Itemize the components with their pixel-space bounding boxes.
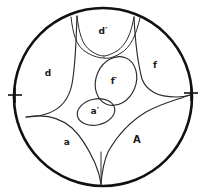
disk-partition-diagram: d′ d f f′ a′ a A xyxy=(0,0,206,194)
region-label-d-prime: d′ xyxy=(98,26,108,36)
region-label-a-prime: a′ xyxy=(91,106,100,116)
region-label-f: f xyxy=(153,60,157,70)
region-label-a: a xyxy=(64,137,70,147)
region-label-d: d xyxy=(45,68,52,78)
region-label-f-prime: f′ xyxy=(111,76,118,86)
figure-container: d′ d f f′ a′ a A xyxy=(0,0,206,194)
region-label-A: A xyxy=(133,134,141,145)
